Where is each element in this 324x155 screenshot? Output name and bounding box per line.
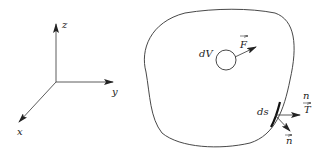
coordinate-axes: z y x (17, 19, 118, 137)
surface-element: ds n T n (257, 90, 312, 146)
continuum-body-diagram: z y x dV F ds n T n (0, 0, 324, 155)
normal-arrow (275, 115, 290, 131)
volume-element: dV F (199, 36, 256, 70)
traction-label: T (304, 104, 312, 115)
y-axis-label: y (111, 86, 118, 97)
surface-element-label: ds (257, 106, 269, 117)
volume-element-label: dV (199, 48, 214, 59)
x-axis (19, 82, 56, 122)
z-axis-label: z (61, 19, 68, 30)
body-force-label: F (239, 39, 248, 50)
normal-label: n (286, 135, 292, 146)
x-axis-label: x (17, 126, 23, 137)
traction-superscript-label: n (303, 90, 309, 101)
volume-element-circle (216, 50, 236, 70)
